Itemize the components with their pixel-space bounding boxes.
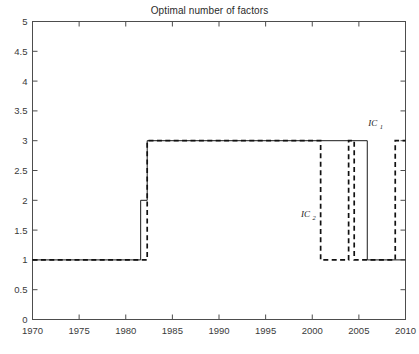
x-tick-label: 1970 [22,325,43,336]
y-tick-label: 2.5 [14,165,27,176]
series-line-ic1 [33,141,406,260]
y-axis-ticks: 00.511.522.533.544.55 [14,16,405,325]
x-tick-label: 1995 [255,325,276,336]
plot-frame [33,22,406,320]
x-tick-label: 2010 [395,325,416,336]
series-label-ic2: IC [300,209,311,219]
data-series-group [33,141,406,260]
y-tick-label: 3 [22,135,27,146]
y-tick-label: 0 [22,314,27,325]
x-tick-label: 1975 [69,325,90,336]
y-tick-label: 0.5 [14,284,27,295]
x-axis-ticks: 197019751980198519901995200020052010 [22,22,416,336]
y-tick-label: 1 [22,254,27,265]
y-tick-label: 2 [22,195,27,206]
series-label-ic1-subscript: 1 [380,123,383,130]
chart-figure: Optimal number of factors 00.511.522.533… [0,0,419,354]
series-label-ic1: IC [367,118,378,128]
y-tick-label: 3.5 [14,105,27,116]
x-tick-label: 2000 [302,325,323,336]
y-tick-label: 5 [22,16,27,27]
y-tick-label: 4.5 [14,46,27,57]
plot-area: 00.511.522.533.544.55 197019751980198519… [0,0,419,354]
y-tick-label: 4 [22,76,27,87]
y-tick-label: 1.5 [14,225,27,236]
series-label-ic2-subscript: 2 [313,214,317,221]
x-tick-label: 1980 [115,325,136,336]
x-tick-label: 2005 [348,325,369,336]
x-tick-label: 1985 [162,325,183,336]
series-line-ic2 [33,141,406,260]
x-tick-label: 1990 [208,325,229,336]
